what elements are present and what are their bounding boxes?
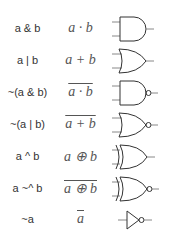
expr-nor: a + b [58, 116, 103, 132]
expr-and: a · b [58, 20, 103, 36]
code-xnor: a ~^ b [0, 182, 55, 194]
code-or: a | b [0, 54, 55, 66]
xnor-gate-icon [110, 174, 166, 204]
expr-nand: a · b [58, 84, 103, 100]
row-nor: ~(a | b) a + b [0, 110, 178, 140]
expr-or: a + b [58, 52, 103, 68]
expr-xnor: a ⊕ b [58, 180, 103, 197]
nor-gate-icon [110, 110, 166, 140]
row-or: a | b a + b [0, 46, 178, 76]
and-gate-icon [110, 14, 166, 44]
not-gate-icon [110, 205, 166, 231]
row-nand: ~(a & b) a · b [0, 78, 178, 108]
code-not: ~a [0, 213, 55, 225]
row-not: ~a a [0, 205, 178, 231]
expr-xor: a ⊕ b [58, 148, 103, 165]
row-xnor: a ~^ b a ⊕ b [0, 174, 178, 204]
row-and: a & b a · b [0, 14, 178, 44]
row-xor: a ^ b a ⊕ b [0, 142, 178, 172]
expr-not: a [58, 211, 103, 227]
xor-gate-icon [110, 142, 166, 172]
code-xor: a ^ b [0, 150, 55, 162]
code-and: a & b [0, 22, 55, 34]
code-nor: ~(a | b) [0, 118, 55, 130]
code-nand: ~(a & b) [0, 86, 55, 98]
or-gate-icon [110, 46, 166, 76]
nand-gate-icon [110, 78, 166, 108]
